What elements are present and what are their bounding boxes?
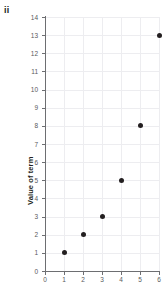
scatter-plot-figure: ii 01234567891011121314 0123456 Value of…	[0, 0, 162, 289]
y-axis-tick	[42, 108, 45, 109]
gridline-horizontal	[45, 144, 159, 145]
y-axis-tick-label: 14	[8, 14, 38, 21]
x-axis-tick-label: 0	[37, 276, 53, 283]
x-axis-tick-label: 2	[75, 276, 91, 283]
y-axis-tick	[42, 71, 45, 72]
data-point	[100, 214, 105, 219]
y-axis-title: Value of term	[26, 85, 35, 205]
data-point	[81, 232, 86, 237]
x-axis-tick-label: 6	[151, 276, 162, 283]
data-point	[157, 33, 162, 38]
x-axis-tick	[64, 272, 65, 275]
y-axis-tick	[42, 53, 45, 54]
data-point	[138, 123, 143, 128]
x-axis-tick-label: 1	[56, 276, 72, 283]
y-axis-tick	[42, 126, 45, 127]
y-axis-tick	[42, 162, 45, 163]
gridline-horizontal	[45, 235, 159, 236]
y-axis-tick	[42, 235, 45, 236]
gridline-horizontal	[45, 17, 159, 18]
plot-area	[45, 17, 159, 271]
y-axis-tick	[42, 217, 45, 218]
x-axis-tick-label: 5	[132, 276, 148, 283]
gridline-horizontal	[45, 53, 159, 54]
gridline-horizontal	[45, 71, 159, 72]
gridline-horizontal	[45, 108, 159, 109]
gridline-horizontal	[45, 90, 159, 91]
x-axis-tick	[83, 272, 84, 275]
y-axis-tick-label: 11	[8, 68, 38, 75]
data-point	[62, 250, 67, 255]
y-axis-tick-label: 13	[8, 32, 38, 39]
gridline-horizontal	[45, 180, 159, 181]
y-axis-tick-label: 1	[8, 249, 38, 256]
y-axis-tick	[42, 144, 45, 145]
data-point	[119, 178, 124, 183]
y-axis-tick	[42, 180, 45, 181]
x-axis-tick	[121, 272, 122, 275]
y-axis-tick	[42, 90, 45, 91]
y-axis-tick-label: 3	[8, 213, 38, 220]
y-axis-tick	[42, 198, 45, 199]
y-axis-tick-label: 12	[8, 50, 38, 57]
x-axis-tick	[159, 272, 160, 275]
x-axis-tick	[45, 272, 46, 275]
x-axis-tick-label: 3	[94, 276, 110, 283]
y-axis-tick	[42, 35, 45, 36]
x-axis-tick-label: 4	[113, 276, 129, 283]
x-axis-tick	[140, 272, 141, 275]
gridline-vertical	[159, 17, 160, 271]
y-axis-tick-label: 0	[8, 268, 38, 275]
y-axis-tick	[42, 17, 45, 18]
y-axis-tick-label: 2	[8, 231, 38, 238]
gridline-horizontal	[45, 35, 159, 36]
gridline-horizontal	[45, 198, 159, 199]
gridline-horizontal	[45, 162, 159, 163]
x-axis-tick	[102, 272, 103, 275]
y-axis-line	[45, 16, 46, 272]
y-axis-tick	[42, 253, 45, 254]
